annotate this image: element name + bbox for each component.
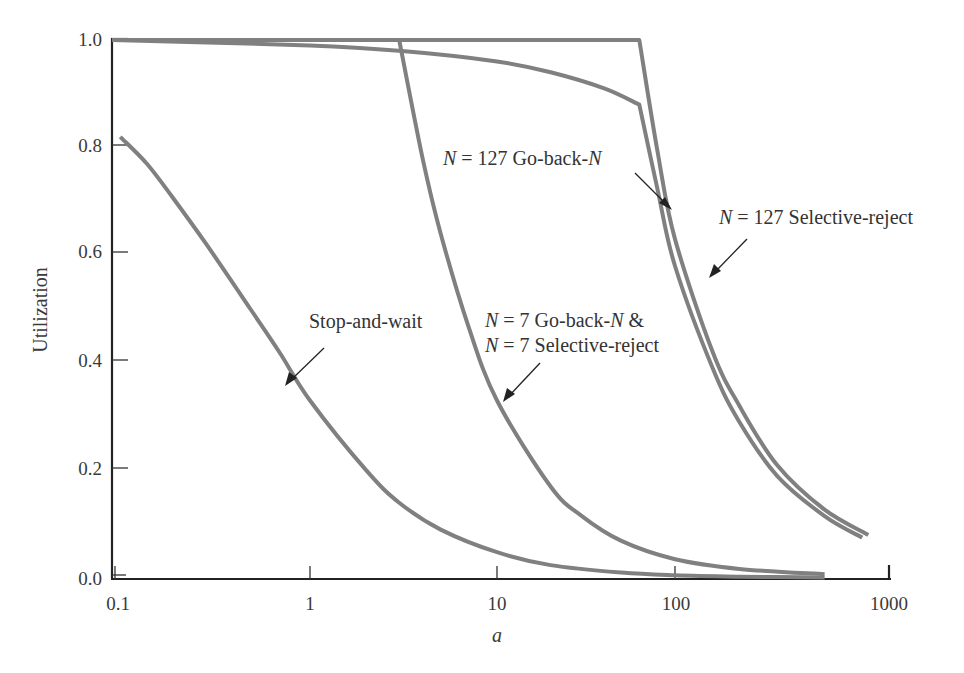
curve-n127-go-back-n: [112, 40, 862, 538]
curve-stop-and-wait: [120, 137, 824, 578]
y-tick-label-1.0: 1.0: [78, 29, 102, 50]
arrow-head-icon: [503, 388, 515, 402]
y-tick-label-0.8: 0.8: [78, 135, 102, 156]
y-ticks: 1.0 0.8 0.6 0.4 0.2 0.0: [78, 29, 128, 589]
annotations: N = 127 Go-back-N N = 127 Selective-reje…: [285, 147, 913, 402]
arrow-stop-and-wait: [291, 348, 324, 380]
x-tick-label-0.1: 0.1: [106, 593, 130, 614]
y-axis-title: Utilization: [29, 267, 51, 353]
y-tick-label-0.4: 0.4: [78, 350, 102, 371]
y-tick-label-0.6: 0.6: [78, 241, 102, 262]
annotation-n7-line1: N = 7 Go-back-N &: [484, 309, 644, 331]
utilization-chart: 1.0 0.8 0.6 0.4 0.2 0.0 0.1 1 10 100 100…: [0, 0, 964, 673]
y-tick-label-0.0: 0.0: [78, 568, 102, 589]
arrow-head-icon: [709, 264, 721, 278]
x-tick-label-100: 100: [662, 593, 691, 614]
annotation-n127-selective-reject: N = 127 Selective-reject: [718, 206, 913, 229]
curve-n7-gbn-and-sr: [112, 40, 825, 574]
arrow-n127-selective-reject: [715, 239, 747, 272]
arrow-head-icon: [285, 372, 297, 386]
y-tick-label-0.2: 0.2: [78, 458, 102, 479]
arrow-n7: [509, 363, 540, 396]
curve-n127-selective-reject: [112, 40, 868, 535]
x-tick-label-1: 1: [305, 593, 315, 614]
x-axis-title: a: [492, 624, 502, 646]
annotation-stop-and-wait: Stop-and-wait: [309, 310, 423, 333]
x-tick-label-1000: 1000: [870, 593, 908, 614]
annotation-n127-go-back-n: N = 127 Go-back-N: [442, 147, 603, 169]
x-tick-label-10: 10: [488, 593, 507, 614]
annotation-n7-line2: N = 7 Selective-reject: [484, 334, 659, 357]
